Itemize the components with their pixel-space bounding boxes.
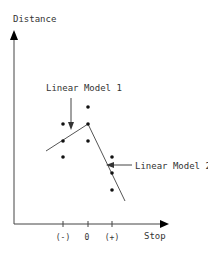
annotation-linear-model-1: Linear Model 1 <box>46 83 122 93</box>
data-point <box>61 122 65 126</box>
y-axis-arrow-icon <box>10 30 18 40</box>
diagram-canvas: Distance (-) 0 (+) Stop Linear Model 1 L… <box>0 0 208 256</box>
annotation-linear-model-2: Linear Model 2 <box>135 161 208 171</box>
x-axis-label: Stop <box>144 231 166 241</box>
data-point <box>86 105 90 109</box>
linear-model-1-line <box>46 124 88 151</box>
x-tick-label-plus: (+) <box>105 233 119 242</box>
data-point <box>61 155 65 159</box>
data-point <box>110 188 114 192</box>
data-point <box>86 139 90 143</box>
linear-model-2-line <box>88 124 125 201</box>
data-point <box>61 139 65 143</box>
data-point <box>86 122 90 126</box>
x-tick-label-minus: (-) <box>56 233 70 242</box>
data-point <box>110 155 114 159</box>
y-axis-label: Distance <box>13 14 56 24</box>
annotation-1-arrow-icon <box>68 122 74 130</box>
data-points <box>61 105 114 192</box>
x-axis-arrow-icon <box>160 220 169 228</box>
data-point <box>110 171 114 175</box>
x-tick-label-zero: 0 <box>85 233 90 242</box>
